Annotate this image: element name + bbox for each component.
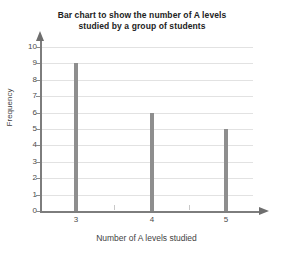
- gridline: [41, 145, 253, 146]
- y-axis-tick-label: 1: [13, 191, 37, 199]
- y-axis-tick-label: 3: [13, 158, 37, 166]
- bar: [74, 63, 78, 211]
- gridline: [41, 178, 253, 179]
- bar-chart: Bar chart to show the number of A levels…: [0, 0, 283, 255]
- gridline: [41, 80, 253, 81]
- y-axis-title: Frequency: [5, 78, 14, 138]
- gridline: [41, 63, 253, 64]
- gridline: [41, 113, 253, 114]
- x-axis-tick-label: 3: [66, 215, 86, 224]
- y-axis-tick-label: 0: [13, 207, 37, 215]
- x-axis-line: [40, 211, 262, 213]
- x-axis-tick-label: 5: [216, 215, 236, 224]
- y-axis-tick-label: 8: [13, 76, 37, 84]
- gridline: [41, 47, 253, 48]
- y-axis-tick-label: 2: [13, 174, 37, 182]
- gridline: [41, 162, 253, 163]
- y-axis-line: [40, 40, 42, 212]
- bar: [224, 129, 228, 211]
- gridline: [41, 129, 253, 130]
- x-axis-minor-tick: [189, 205, 190, 210]
- x-axis-minor-tick: [114, 205, 115, 210]
- x-axis-tick-label: 4: [142, 215, 162, 224]
- y-axis-tick-label: 5: [13, 125, 37, 133]
- y-axis-tick-label: 10: [13, 43, 37, 51]
- x-axis-arrow-icon: [259, 207, 269, 215]
- gridline: [41, 195, 253, 196]
- gridline: [41, 96, 253, 97]
- x-axis-title: Number of A levels studied: [40, 233, 253, 243]
- bar: [150, 113, 154, 211]
- y-axis-tick-label: 7: [13, 92, 37, 100]
- y-axis-tick-label: 9: [13, 59, 37, 67]
- y-axis-tick-label: 6: [13, 109, 37, 117]
- y-axis-arrow-icon: [36, 31, 44, 41]
- y-axis-tick-label: 4: [13, 141, 37, 149]
- plot-area: 012345678910 345 Frequency Number of A l…: [0, 0, 283, 255]
